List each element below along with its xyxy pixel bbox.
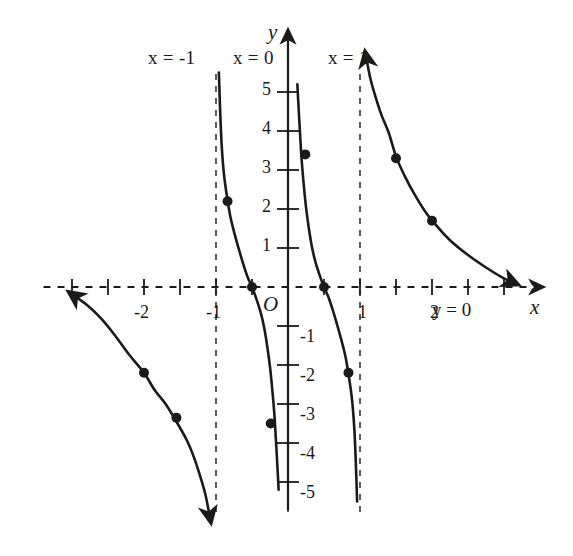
x-tick-label-minus-1: -1 [206, 303, 221, 321]
figure-canvas: x = -1 x = 0 x = 1 y = 0 y x O -2 -1 1 2… [0, 0, 573, 556]
plotted-point [223, 196, 233, 206]
asymptote-label-x-eq-minus-1: x = -1 [148, 48, 195, 67]
plotted-point [300, 149, 310, 159]
y-tick-label-4: 4 [262, 119, 271, 137]
x-tick-label-minus-2: -2 [134, 303, 149, 321]
y-tick-label-2: 2 [262, 197, 271, 215]
function-graph-svg [0, 0, 573, 556]
y-tick-label-5: 5 [262, 80, 271, 98]
y-tick-label-1: 1 [262, 236, 271, 254]
x-tick-label-2: 2 [430, 303, 439, 321]
curve-branch [365, 51, 518, 285]
curve-branch [297, 84, 357, 501]
y-tick-label-3: 3 [262, 158, 271, 176]
y-tick-label-minus-1: -1 [300, 327, 315, 345]
y-tick-label-minus-5: -5 [300, 483, 315, 501]
y-tick-label-minus-3: -3 [300, 405, 315, 423]
asymptote-label-x-eq-0: x = 0 [233, 48, 274, 67]
y-tick-label-minus-2: -2 [300, 366, 315, 384]
x-intercept-point [247, 282, 257, 292]
y-tick-label-minus-4: -4 [300, 444, 315, 462]
plotted-point [391, 153, 401, 163]
asymptote-label-x-eq-1: x = 1 [328, 48, 369, 67]
axis-lines [40, 30, 543, 510]
plotted-point [427, 216, 437, 226]
plotted-point [266, 419, 276, 429]
y-axis-name-label: y [268, 22, 277, 43]
curve-branch [68, 292, 211, 523]
plotted-point [139, 368, 149, 378]
origin-label: O [263, 294, 278, 315]
x-axis-name-label: x [530, 297, 539, 318]
plotted-point [343, 368, 353, 378]
x-intercept-point [319, 282, 329, 292]
x-tick-label-1: 1 [358, 303, 367, 321]
plotted-point [171, 413, 181, 423]
